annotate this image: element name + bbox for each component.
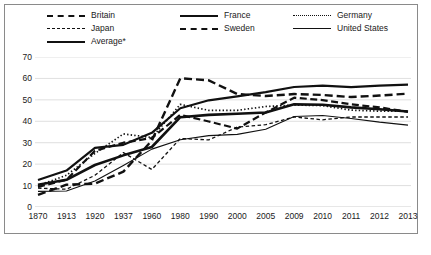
legend-item-germany[interactable]: Germany bbox=[293, 11, 372, 20]
legend-swatch-icon bbox=[47, 41, 85, 43]
y-axis-tick-label: 40 bbox=[23, 117, 32, 126]
y-axis-tick-label: 60 bbox=[23, 74, 32, 83]
x-axis-tick-label: 1937 bbox=[114, 211, 133, 221]
x-axis-tick-label: 2005 bbox=[256, 211, 275, 221]
legend-item-france[interactable]: France bbox=[180, 11, 250, 20]
plot-wrapper: 010203040506070 bbox=[5, 57, 419, 207]
x-axis-tick-label: 2013 bbox=[399, 211, 418, 221]
legend-swatch-icon bbox=[293, 15, 331, 16]
y-axis-labels: 010203040506070 bbox=[5, 57, 35, 207]
x-axis-tick-label: 1913 bbox=[57, 211, 76, 221]
legend-item-britain[interactable]: Britain bbox=[47, 11, 115, 20]
x-axis-tick-label: 2009 bbox=[285, 211, 304, 221]
legend-swatch-icon bbox=[47, 28, 85, 29]
legend-item-label: Japan bbox=[91, 24, 114, 33]
x-axis-tick-label: 2012 bbox=[370, 211, 389, 221]
y-axis-tick-label: 30 bbox=[23, 138, 32, 147]
legend-swatch-icon bbox=[180, 15, 218, 17]
x-axis-tick-label: 1870 bbox=[29, 211, 48, 221]
legend-swatch-icon bbox=[47, 15, 85, 17]
series-line-sweden bbox=[38, 78, 408, 195]
chart-frame: BritainJapanAverage*FranceSwedenGermanyU… bbox=[4, 4, 418, 234]
x-axis-tick-label: 2010 bbox=[313, 211, 332, 221]
legend-swatch-icon bbox=[180, 28, 218, 30]
legend-item-label: United States bbox=[337, 24, 388, 33]
legend-item-sweden[interactable]: Sweden bbox=[180, 24, 255, 33]
y-axis-tick-label: 10 bbox=[23, 181, 32, 190]
legend-item-label: Average* bbox=[91, 37, 126, 46]
legend-item-average[interactable]: Average* bbox=[47, 37, 126, 46]
chart-svg bbox=[35, 57, 411, 207]
x-axis-tick-label: 1990 bbox=[199, 211, 218, 221]
y-axis-tick-label: 70 bbox=[23, 53, 32, 62]
y-axis-tick-label: 20 bbox=[23, 160, 32, 169]
legend-swatch-icon bbox=[293, 28, 331, 29]
chart-legend: BritainJapanAverage*FranceSwedenGermanyU… bbox=[5, 11, 417, 59]
legend-item-united-states[interactable]: United States bbox=[293, 24, 388, 33]
x-axis-tick-label: 2000 bbox=[228, 211, 247, 221]
legend-item-label: France bbox=[224, 11, 250, 20]
legend-item-label: Germany bbox=[337, 11, 372, 20]
x-axis-tick-label: 1960 bbox=[142, 211, 161, 221]
x-axis-tick-label: 1980 bbox=[171, 211, 190, 221]
plot-area bbox=[35, 57, 411, 207]
x-axis-tick-label: 1920 bbox=[85, 211, 104, 221]
x-axis-tick-label: 2011 bbox=[342, 211, 360, 221]
legend-item-label: Britain bbox=[91, 11, 115, 20]
legend-item-label: Sweden bbox=[224, 24, 255, 33]
y-axis-tick-label: 50 bbox=[23, 95, 32, 104]
legend-item-japan[interactable]: Japan bbox=[47, 24, 114, 33]
x-axis-labels: 1870191319201937196019801990200020052009… bbox=[35, 211, 409, 227]
